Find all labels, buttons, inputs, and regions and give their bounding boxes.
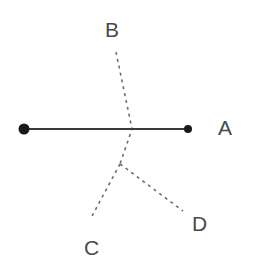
right-endpoint-dot <box>184 125 192 133</box>
left-endpoint-dot <box>19 124 30 135</box>
label-d: D <box>192 213 208 234</box>
label-b: B <box>105 19 120 40</box>
geometry-figure: A B C D <box>0 0 264 277</box>
label-a: A <box>218 117 233 138</box>
label-c: C <box>84 237 100 258</box>
